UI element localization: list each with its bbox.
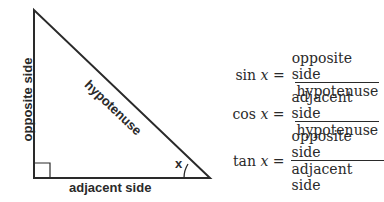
equals-sign: = [273, 153, 285, 169]
numerator: opposite side [291, 50, 384, 82]
numerator: opposite side [291, 128, 384, 160]
angle-arc [184, 164, 188, 178]
equals-sign: = [273, 67, 285, 83]
right-angle-marker [34, 163, 50, 178]
adjacent-side-label: adjacent side [69, 180, 151, 195]
fn-name: cos [233, 106, 256, 122]
variable: x [261, 67, 269, 83]
numerator: adjacent side [291, 89, 384, 121]
variable: x [260, 153, 268, 169]
tan-lhs: tan x = [232, 153, 287, 169]
triangle-outline [34, 10, 210, 178]
tan-fraction: opposite side adjacent side [291, 128, 384, 193]
denominator: adjacent side [291, 160, 384, 193]
cos-lhs: cos x = [232, 106, 287, 122]
equals-sign: = [273, 106, 285, 122]
fn-name: tan [233, 153, 256, 169]
opposite-side-label: opposite side [20, 58, 35, 142]
fn-name: sin [235, 67, 256, 83]
tan-formula: tan x = opposite side adjacent side [232, 128, 384, 193]
angle-x-label: x [175, 156, 182, 171]
sin-lhs: sin x = [232, 67, 287, 83]
variable: x [260, 106, 268, 122]
